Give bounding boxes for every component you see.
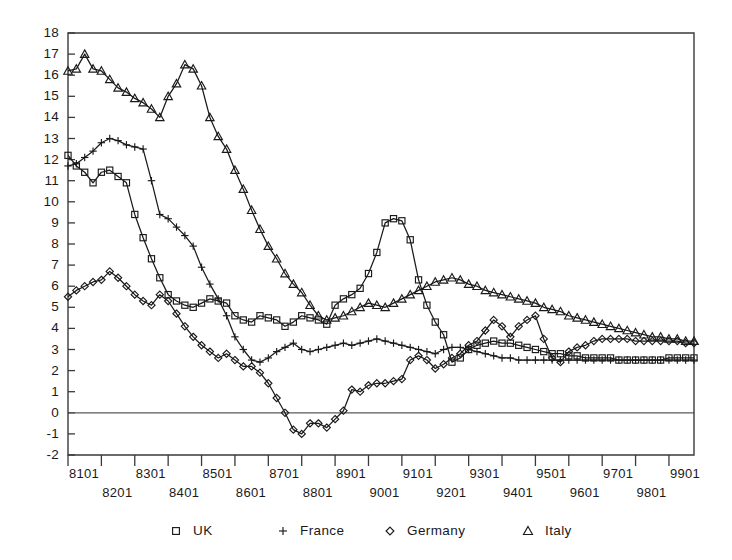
inflation-line-chart: -2-10123456789101112131415161718 8101830…	[0, 0, 732, 560]
y-tick-label: 11	[44, 173, 59, 188]
y-tick-label: 0	[51, 405, 59, 420]
y-tick-label: 10	[43, 194, 59, 209]
x-tick-label-lower: 9201	[436, 485, 466, 500]
y-tick-label: -1	[46, 426, 59, 441]
legend-label-uk: UK	[193, 523, 213, 538]
y-tick-label: 4	[51, 320, 59, 335]
chart-container: -2-10123456789101112131415161718 8101830…	[0, 0, 732, 560]
y-tick-label: 3	[51, 342, 59, 357]
x-tick-label-upper: 8301	[136, 466, 166, 481]
x-tick-label-upper: 8501	[202, 466, 232, 481]
x-tick-label-lower: 9801	[637, 485, 667, 500]
x-tick-label-upper: 9101	[403, 466, 433, 481]
legend-label-france: France	[300, 523, 344, 538]
x-tick-label-upper: 9301	[470, 466, 500, 481]
y-tick-label: 5	[51, 299, 59, 314]
y-tick-label: 12	[43, 152, 59, 167]
y-tick-label: 8	[51, 236, 59, 251]
x-tick-label-lower: 9401	[503, 485, 533, 500]
x-tick-label-lower: 8801	[303, 485, 333, 500]
x-tick-label-upper: 9501	[536, 466, 566, 481]
x-tick-label-upper: 8101	[69, 466, 99, 481]
x-tick-label-lower: 9001	[369, 485, 399, 500]
y-tick-label: 9	[51, 215, 59, 230]
x-tick-label-lower: 8401	[169, 485, 199, 500]
y-tick-label: 7	[51, 257, 59, 272]
y-tick-label: 13	[43, 131, 59, 146]
legend-label-italy: Italy	[545, 523, 572, 538]
legend-label-germany: Germany	[407, 523, 465, 538]
y-tick-label: -2	[46, 447, 59, 462]
y-tick-label: 14	[43, 109, 59, 124]
y-tick-label: 18	[43, 25, 59, 40]
x-tick-label-upper: 9701	[603, 466, 633, 481]
y-tick-label: 15	[43, 88, 59, 103]
y-tick-label: 1	[51, 384, 59, 399]
y-tick-label: 17	[43, 46, 59, 61]
x-tick-label-lower: 9601	[570, 485, 600, 500]
x-tick-label-lower: 8601	[236, 485, 266, 500]
y-tick-label: 2	[51, 363, 59, 378]
x-tick-label-upper: 8901	[336, 466, 366, 481]
x-tick-label-upper: 8701	[269, 466, 299, 481]
x-tick-label-upper: 9901	[670, 466, 700, 481]
y-tick-label: 16	[43, 67, 59, 82]
x-tick-label-lower: 8201	[102, 485, 132, 500]
y-tick-label: 6	[51, 278, 59, 293]
